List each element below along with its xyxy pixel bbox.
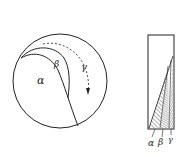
diagram-canvas: α β γ α β γ [0, 0, 186, 155]
label-gamma-right: γ [168, 135, 173, 144]
alpha-boundary [21, 54, 78, 126]
label-gamma: γ [81, 61, 87, 72]
arrow-head-icon [86, 88, 90, 95]
label-alpha-right: α [148, 138, 154, 148]
label-alpha: α [37, 74, 45, 87]
label-beta-right: β [157, 137, 163, 147]
right-panel: α β γ [148, 35, 174, 148]
left-panel: α β γ [13, 34, 107, 128]
label-beta: β [53, 59, 59, 69]
outer-circle [13, 34, 107, 128]
